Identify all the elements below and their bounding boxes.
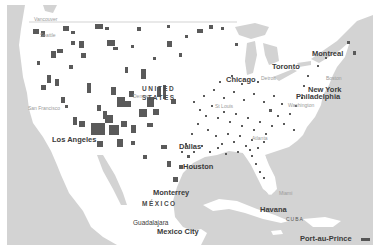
city-label-mexico-city: Mexico City — [157, 228, 199, 236]
city-label-detroit: Detroit — [261, 76, 276, 81]
map-canvas[interactable]: UNITED STATES MÉXICO CUBA Montreal Toron… — [7, 5, 373, 245]
land-hispaniola — [303, 217, 341, 227]
city-label-seattle: Seattle — [40, 33, 56, 38]
city-label-miami: Miami — [279, 191, 292, 196]
map-basemap — [7, 5, 373, 245]
city-label-dallas: Dallas — [179, 143, 201, 151]
city-label-chicago: Chicago — [226, 76, 256, 84]
city-label-guadalajara: Guadalajara — [133, 220, 168, 227]
city-label-los-angeles: Los Angeles — [52, 136, 96, 144]
city-label-boston: Boston — [326, 76, 342, 81]
city-label-port-au-prince: Port-au-Prince — [300, 235, 352, 243]
city-label-toronto: Toronto — [272, 63, 300, 71]
city-label-vancouver: Vancouver — [34, 17, 58, 22]
city-label-houston: Houston — [183, 163, 213, 171]
country-label-usa-line1: UNITED — [142, 86, 175, 93]
city-label-denver: Denver — [133, 94, 149, 99]
land-jamaica — [271, 230, 283, 235]
city-label-washington: Washington — [288, 103, 314, 108]
city-label-philadelphia: Philadelphia — [296, 93, 340, 101]
city-label-havana: Havana — [260, 206, 287, 214]
city-label-atlanta: Atlanta — [252, 136, 268, 141]
country-label-mexico: MÉXICO — [142, 201, 177, 208]
city-label-san-francisco: San Francisco — [28, 106, 60, 111]
city-label-montreal: Montreal — [312, 50, 343, 58]
city-label-monterrey: Monterrey — [153, 189, 189, 197]
country-label-cuba: CUBA — [286, 217, 304, 222]
city-label-st-louis: St Louis — [215, 104, 233, 109]
scale-bar — [361, 238, 370, 241]
